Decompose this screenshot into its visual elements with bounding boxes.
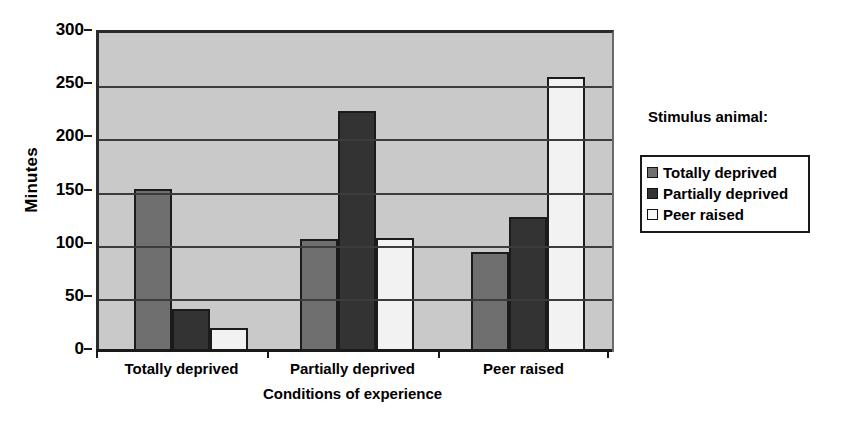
y-tick-mark (84, 242, 92, 244)
y-axis-ticks: 300250200150100500 (22, 30, 84, 349)
legend-swatch-icon (647, 167, 658, 178)
x-tick-mark (267, 349, 269, 358)
legend-item-label: Partially deprived (663, 186, 788, 201)
bar-chart-figure: Minutes 300250200150100500 Totally depri… (0, 0, 841, 425)
legend-swatch-icon (647, 188, 658, 199)
legend-box: Totally deprivedPartially deprivedPeer r… (640, 155, 810, 233)
y-tick-label: 100 (22, 233, 84, 253)
bar (509, 217, 547, 352)
y-tick-label: 300 (22, 20, 84, 40)
y-tick-label: 150 (22, 180, 84, 200)
legend-item-label: Peer raised (663, 207, 744, 222)
y-tick-label: 200 (22, 126, 84, 146)
x-tick-label: Totally deprived (125, 360, 239, 377)
y-tick-mark (84, 82, 92, 84)
y-tick-mark (84, 295, 92, 297)
plot-area (96, 30, 614, 352)
bar (471, 252, 509, 352)
legend-item-label: Totally deprived (663, 165, 777, 180)
x-axis-ticks (96, 349, 609, 359)
gridline (99, 299, 612, 301)
bar (134, 189, 172, 352)
y-tick-mark (84, 135, 92, 137)
y-tick-label: 250 (22, 73, 84, 93)
x-tick-mark (96, 349, 98, 358)
y-tick-label: 50 (22, 286, 84, 306)
x-tick-label: Peer raised (483, 360, 564, 377)
y-tick-mark (84, 348, 92, 350)
x-axis-labels: Totally deprivedPartially deprivedPeer r… (96, 360, 609, 384)
bar (376, 238, 414, 352)
bar (338, 111, 376, 352)
gridline (99, 193, 612, 195)
gridline (99, 246, 612, 248)
bar (300, 239, 338, 352)
x-axis-title: Conditions of experience (96, 385, 609, 402)
bar (547, 77, 585, 352)
y-tick-mark (84, 29, 92, 31)
gridline (99, 86, 612, 88)
bar (172, 309, 210, 352)
x-tick-label: Partially deprived (290, 360, 415, 377)
x-tick-mark (438, 349, 440, 358)
legend-item[interactable]: Partially deprived (647, 183, 802, 204)
x-tick-mark (607, 349, 609, 358)
y-tick-mark (84, 189, 92, 191)
legend-item[interactable]: Totally deprived (647, 162, 802, 183)
legend-title: Stimulus animal: (648, 108, 768, 125)
gridline (99, 139, 612, 141)
legend-item[interactable]: Peer raised (647, 204, 802, 225)
legend-swatch-icon (647, 209, 658, 220)
y-tick-label: 0 (22, 339, 84, 359)
